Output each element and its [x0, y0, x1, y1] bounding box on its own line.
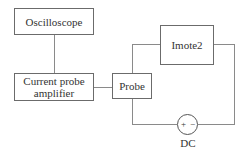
minus-sign: − — [190, 120, 195, 129]
imote2-label: Imote2 — [171, 39, 202, 51]
edge-dc-right — [198, 124, 235, 125]
oscilloscope-box: Oscilloscope — [14, 8, 94, 35]
imote2-box: Imote2 — [160, 25, 214, 65]
edge-dc-left — [132, 124, 177, 125]
dc-label: DC — [172, 137, 204, 149]
probe-box: Probe — [112, 73, 152, 99]
oscilloscope-label: Oscilloscope — [26, 16, 83, 28]
edge-imote2-right — [213, 44, 234, 45]
plus-sign: + — [181, 120, 186, 129]
dc-source-icon: + − — [177, 114, 198, 135]
edge-amplifier-probe — [94, 87, 112, 88]
probe-label: Probe — [119, 80, 145, 92]
edge-probe-imote2 — [132, 44, 160, 45]
edge-probe-down — [132, 98, 133, 125]
current-probe-amplifier-box: Current probe amplifier — [14, 73, 94, 101]
edge-oscilloscope-amplifier — [54, 34, 55, 73]
edge-imote2-down — [234, 44, 235, 125]
amplifier-label-line1: Current probe — [23, 75, 84, 87]
edge-probe-up — [132, 44, 133, 73]
amplifier-label-line2: amplifier — [34, 87, 74, 99]
